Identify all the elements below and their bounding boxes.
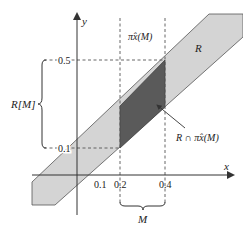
brace-bottom <box>120 202 165 210</box>
y-axis-label: y <box>81 15 87 27</box>
intersection-pointer <box>157 105 185 128</box>
intersection-region <box>120 60 165 148</box>
x-tick-0.2: 0.2 <box>114 179 127 190</box>
y-tick-0.5: 0.5 <box>58 55 71 66</box>
label-R: R <box>194 42 202 54</box>
label-R-of-M: R[M] <box>10 98 35 110</box>
x-tick-0.4: 0.4 <box>159 179 172 190</box>
x-axis-label: x <box>223 160 229 172</box>
label-intersection: R ∩ π̂x(M) <box>175 132 219 144</box>
relation-diagram: x y 0.1 0.2 0.4 0.5 0.1 R[M] M π̂x(M) R … <box>0 0 243 235</box>
label-projection: π̂x(M) <box>128 31 153 43</box>
x-tick-0.1: 0.1 <box>94 179 107 190</box>
brace-left <box>38 60 46 148</box>
label-M: M <box>137 213 148 225</box>
y-tick-0.1: 0.1 <box>58 143 71 154</box>
